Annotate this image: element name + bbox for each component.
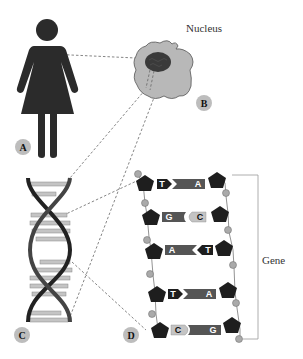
base-pair-5: C G [151, 317, 241, 338]
svg-text:B: B [201, 98, 208, 109]
dna-ladder: T A G C A T T A [135, 171, 243, 343]
svg-text:T: T [159, 179, 165, 189]
badge-c: C [14, 327, 30, 343]
gene-bracket [232, 175, 258, 339]
svg-text:T: T [170, 289, 176, 299]
nucleus-label: Nucleus [186, 22, 222, 34]
svg-text:A: A [206, 289, 213, 299]
badge-a: A [15, 139, 31, 155]
svg-text:G: G [165, 212, 172, 222]
gene-label: Gene [262, 254, 285, 266]
dna-diagram: A Nucleus B [0, 0, 303, 359]
svg-text:T: T [205, 245, 211, 255]
cell-nucleus-icon [134, 41, 193, 99]
connector-helix-to-ladder-bottom [72, 262, 146, 330]
svg-text:A: A [195, 179, 202, 189]
svg-text:D: D [127, 330, 134, 341]
connector-helix-to-ladder-top [66, 178, 143, 214]
base-pair-3: A T [145, 240, 233, 259]
svg-text:C: C [18, 330, 25, 341]
badge-b: B [196, 95, 212, 111]
base-pair-4: T A [148, 282, 237, 302]
svg-text:G: G [209, 325, 216, 335]
svg-text:A: A [169, 245, 176, 255]
dna-helix-icon [28, 178, 72, 322]
base-pair-2: G C [142, 206, 229, 225]
base-pair-1: T A [136, 172, 226, 191]
person-icon [17, 19, 78, 158]
badge-d: D [123, 327, 139, 343]
svg-text:C: C [197, 212, 204, 222]
svg-text:A: A [19, 142, 27, 153]
svg-text:C: C [175, 325, 182, 335]
connector-nucleus-to-helix-top [70, 90, 145, 178]
